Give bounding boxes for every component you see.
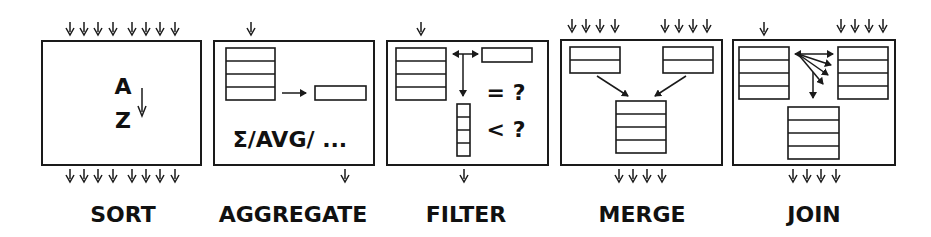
filter-operator: = ? < ? FILTER bbox=[387, 22, 548, 227]
join-label: JOIN bbox=[785, 202, 841, 227]
join-right-table-icon bbox=[838, 47, 888, 99]
aggregate-result-row-icon bbox=[315, 86, 366, 100]
sort-operator: A Z SORT bbox=[42, 22, 201, 227]
sort-label: SORT bbox=[90, 202, 156, 227]
aggregate-input-table-icon bbox=[226, 48, 275, 100]
join-operator: JOIN bbox=[733, 19, 895, 227]
join-output-arrows bbox=[789, 169, 840, 182]
filter-condition-equals: = ? bbox=[487, 80, 526, 105]
merge-input-arrows bbox=[568, 19, 711, 32]
sort-letter-a: A bbox=[114, 74, 131, 99]
merge-result-table-icon bbox=[616, 101, 666, 153]
filter-label: FILTER bbox=[426, 202, 507, 227]
sort-input-arrows bbox=[66, 22, 179, 35]
merge-left-table-icon bbox=[570, 47, 620, 73]
aggregate-operator: Σ/AVG/ ... AGGREGATE bbox=[214, 22, 374, 227]
aggregate-output-arrow-icon bbox=[341, 169, 349, 182]
join-right-input-arrows bbox=[837, 19, 887, 32]
filter-condition-field-icon bbox=[482, 48, 532, 62]
join-left-input-arrow-icon bbox=[760, 22, 768, 35]
merge-operator: MERGE bbox=[561, 19, 722, 227]
filter-condition-less-than: < ? bbox=[487, 117, 526, 142]
filter-input-table-icon bbox=[396, 48, 446, 100]
filter-input-arrow-icon bbox=[417, 22, 425, 35]
sort-letter-z: Z bbox=[115, 108, 131, 133]
join-left-table-icon bbox=[739, 47, 789, 99]
merge-right-table-icon bbox=[663, 47, 713, 73]
operators-diagram: A Z SORT Σ/AVG/ ... AGGREGATE bbox=[0, 0, 931, 237]
filter-output-arrow-icon bbox=[460, 169, 468, 182]
merge-output-arrows bbox=[615, 169, 666, 182]
join-result-table-icon bbox=[788, 107, 839, 159]
aggregate-input-arrow-icon bbox=[247, 22, 255, 35]
sort-box bbox=[42, 41, 201, 165]
aggregate-formula: Σ/AVG/ ... bbox=[233, 127, 347, 152]
filter-output-column-icon bbox=[457, 104, 470, 156]
merge-label: MERGE bbox=[599, 202, 686, 227]
aggregate-label: AGGREGATE bbox=[219, 202, 368, 227]
sort-output-arrows bbox=[66, 169, 179, 182]
